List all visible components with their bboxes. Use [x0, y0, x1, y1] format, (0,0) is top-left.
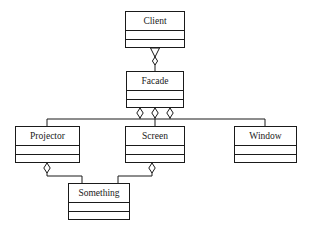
class-box-client[interactable]: Client	[126, 12, 185, 48]
hollow-diamond-icon	[44, 163, 50, 173]
class-name-label: Projector	[30, 131, 66, 141]
relationship-client-facade[interactable]	[151, 48, 160, 71]
class-box-window[interactable]: Window	[235, 127, 297, 163]
link-line-screen-something	[118, 172, 152, 183]
hollow-diamond-icon	[137, 108, 143, 118]
class-name-label: Client	[143, 16, 167, 26]
link-line-projector-something	[47, 172, 82, 183]
uml-class-diagram: Client Facade Projector Screen	[0, 0, 310, 235]
class-box-something[interactable]: Something	[69, 184, 130, 220]
hollow-triangle-icon	[151, 48, 160, 57]
class-box-projector[interactable]: Projector	[16, 127, 80, 163]
relationship-screen-something[interactable]	[118, 163, 155, 183]
class-box-facade[interactable]: Facade	[127, 72, 184, 108]
hollow-diamond-icon	[152, 108, 158, 118]
hollow-diamond-icon	[152, 57, 157, 65]
diagram-canvas: Client Facade Projector Screen	[0, 0, 310, 235]
hollow-diamond-icon	[167, 108, 173, 118]
relationship-projector-something[interactable]	[44, 163, 82, 183]
hollow-diamond-icon	[149, 163, 155, 173]
class-name-label: Something	[78, 188, 119, 198]
class-name-label: Window	[249, 131, 281, 141]
class-box-screen[interactable]: Screen	[126, 127, 185, 163]
class-name-label: Screen	[142, 131, 168, 141]
relationship-facade-children[interactable]	[47, 108, 265, 126]
class-name-label: Facade	[142, 76, 169, 86]
